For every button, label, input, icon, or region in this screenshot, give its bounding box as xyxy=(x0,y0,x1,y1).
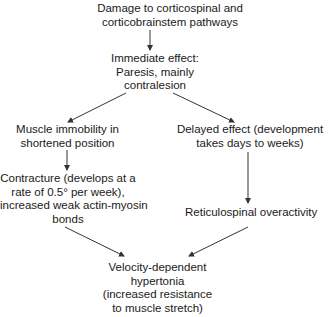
node-text: Contracture (develops at a xyxy=(0,172,136,186)
arrow-immediate-to-delayed xyxy=(173,93,234,122)
node-text: takes days to weeks) xyxy=(175,137,325,151)
arrow-reticulospinal-to-hypertonia xyxy=(189,227,248,256)
node-text: bonds xyxy=(0,213,136,227)
node-text: Velocity-dependent xyxy=(100,261,215,275)
node-text: Muscle immobility in xyxy=(5,123,130,137)
node-reticulospinal: Reticulospinal overactivity xyxy=(185,206,315,220)
node-damage: Damage to corticospinal and corticobrain… xyxy=(85,2,255,29)
node-text: hypertonia xyxy=(100,275,215,289)
node-text: contralesion xyxy=(95,79,215,93)
node-text: increased weak actin-myosin xyxy=(0,199,136,213)
node-immobility: Muscle immobility in shortened position xyxy=(5,123,130,150)
node-text: rate of 0.5° per week), xyxy=(0,186,136,200)
node-text: Paresis, mainly xyxy=(95,66,215,80)
node-text: Delayed effect (development xyxy=(175,123,325,137)
node-text: (increased resistance xyxy=(100,288,215,302)
node-text: shortened position xyxy=(5,137,130,151)
node-immediate: Immediate effect: Paresis, mainly contra… xyxy=(95,52,215,93)
arrow-immediate-to-immobility xyxy=(68,93,126,122)
node-hypertonia: Velocity-dependent hypertonia (increased… xyxy=(100,261,215,315)
node-contracture: Contracture (develops at a rate of 0.5° … xyxy=(0,172,136,226)
node-delayed: Delayed effect (development takes days t… xyxy=(175,123,325,150)
node-text: Damage to corticospinal and xyxy=(85,2,255,16)
node-text: Immediate effect: xyxy=(95,52,215,66)
node-text: corticobrainstem pathways xyxy=(85,16,255,30)
node-text: to muscle stretch) xyxy=(100,302,215,316)
node-text: Reticulospinal overactivity xyxy=(185,206,315,220)
arrow-contracture-to-hypertonia xyxy=(65,227,124,256)
